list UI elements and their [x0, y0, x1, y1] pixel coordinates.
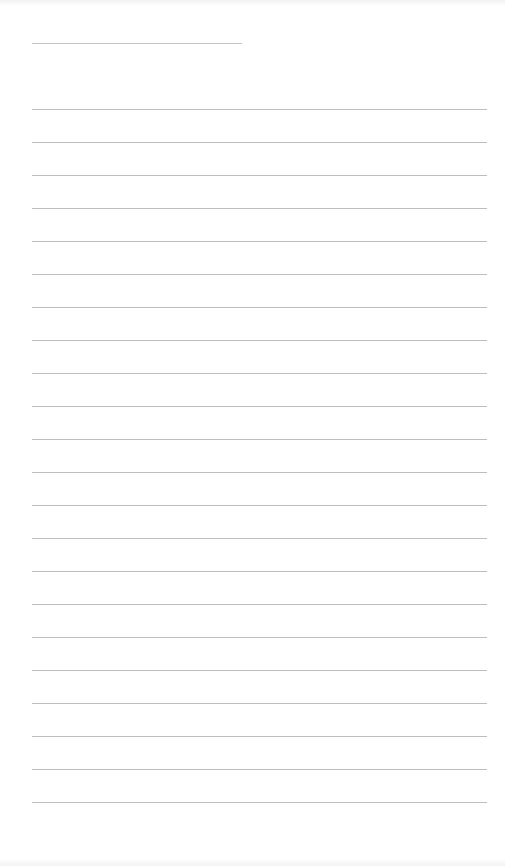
ruled-line-16 — [32, 604, 487, 637]
ruled-line-18 — [32, 670, 487, 703]
ruled-line-9 — [32, 373, 487, 406]
ruled-line-10 — [32, 406, 487, 439]
ruled-line-17 — [32, 637, 487, 670]
notepad-page — [0, 0, 505, 866]
ruled-line-8 — [32, 340, 487, 373]
ruled-line-5 — [32, 241, 487, 274]
ruled-line-22 — [32, 802, 487, 803]
ruled-line-11 — [32, 439, 487, 472]
ruled-lines — [32, 109, 487, 803]
ruled-line-7 — [32, 307, 487, 340]
ruled-line-12 — [32, 472, 487, 505]
ruled-line-13 — [32, 505, 487, 538]
ruled-line-20 — [32, 736, 487, 769]
ruled-line-3 — [32, 175, 487, 208]
ruled-line-14 — [32, 538, 487, 571]
top-edge-bleed — [0, 0, 505, 6]
ruled-line-15 — [32, 571, 487, 604]
ruled-line-19 — [32, 703, 487, 736]
bottom-edge-bleed — [0, 858, 505, 866]
ruled-line-21 — [32, 769, 487, 802]
title-line — [32, 43, 242, 44]
ruled-line-1 — [32, 109, 487, 142]
ruled-line-4 — [32, 208, 487, 241]
ruled-line-2 — [32, 142, 487, 175]
ruled-line-6 — [32, 274, 487, 307]
